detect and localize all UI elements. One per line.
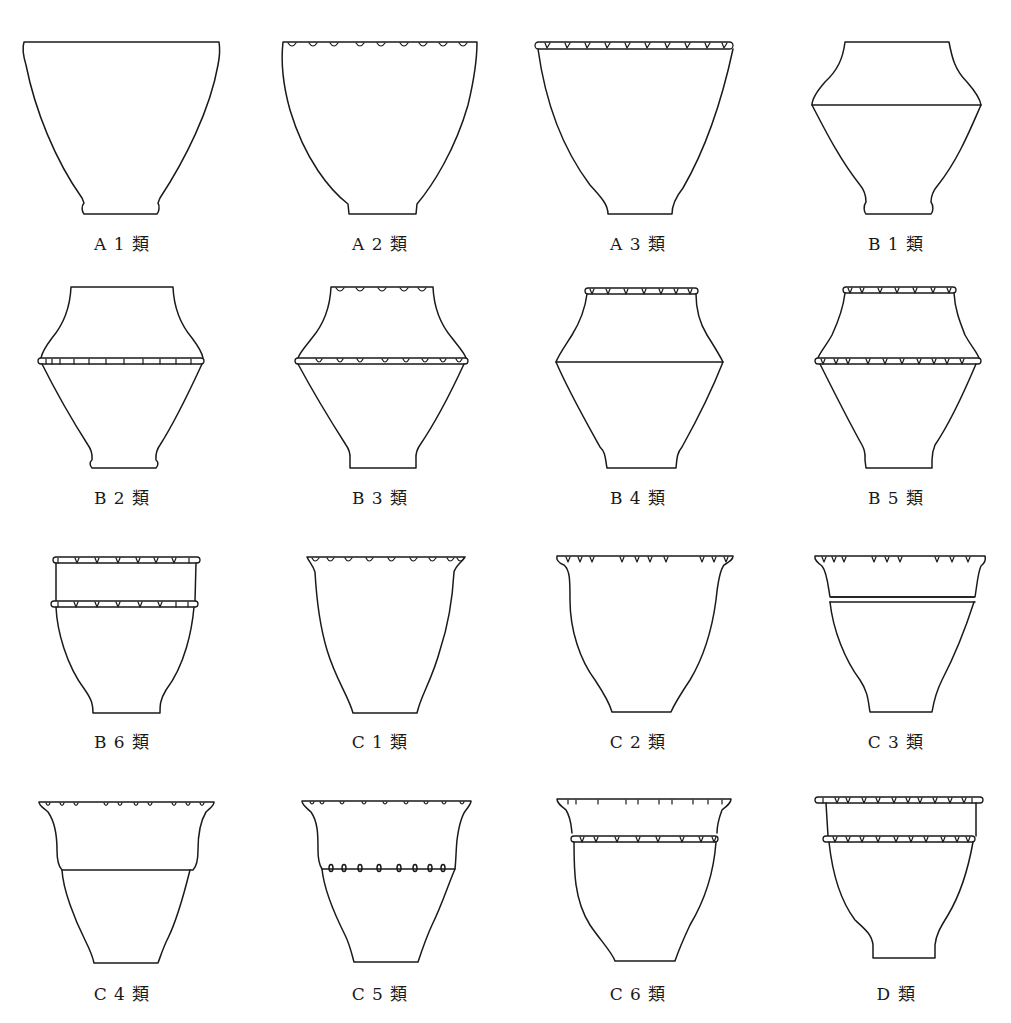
label-a1: A 1 類	[42, 230, 202, 255]
vessel-c3	[815, 556, 986, 712]
label-d: D 類	[816, 980, 976, 1005]
label-a3: A 3 類	[558, 230, 718, 255]
vessel-b2	[38, 287, 204, 468]
label-c2: C 2 類	[558, 728, 718, 753]
rim-band-notches	[310, 802, 464, 804]
vessel-b1	[812, 42, 981, 214]
vessel-b6	[51, 557, 200, 713]
rim-notches	[312, 558, 464, 561]
label-c4: C 4 類	[42, 980, 202, 1005]
vessel-c2	[557, 556, 733, 712]
vessel-a3	[535, 42, 733, 214]
label-b4: B 4 類	[558, 484, 718, 509]
neck-perforations	[329, 865, 445, 872]
vessel-b4	[556, 288, 723, 468]
label-b1: B 1 類	[816, 230, 976, 255]
rim-band-notches	[822, 557, 970, 562]
label-c3: C 3 類	[816, 728, 976, 753]
vessel-c4	[39, 802, 214, 963]
vessel-a1	[23, 42, 220, 214]
vessel-b5	[815, 287, 981, 468]
vessel-c5	[302, 801, 471, 962]
vessel-c6	[557, 799, 731, 961]
rim-band-notches	[46, 803, 204, 806]
vessel-a2	[282, 42, 477, 214]
label-c5: C 5 類	[300, 980, 460, 1005]
vessel-c1	[307, 557, 465, 713]
typology-figure: A 1 類 A 2 類 A 3 類 B 1 類 B 2 類 B 3 類 B 4 …	[0, 0, 1011, 1023]
label-b2: B 2 類	[42, 484, 202, 509]
rim-notches	[288, 43, 467, 46]
rim-notches	[336, 288, 426, 291]
label-a2: A 2 類	[300, 230, 460, 255]
label-c1: C 1 類	[300, 728, 460, 753]
vessel-b3	[295, 287, 468, 468]
label-c6: C 6 類	[558, 980, 718, 1005]
rim-band-notches	[568, 800, 722, 804]
label-b6: B 6 類	[42, 728, 202, 753]
label-b3: B 3 類	[300, 484, 460, 509]
label-b5: B 5 類	[816, 484, 976, 509]
vessel-d	[815, 797, 983, 958]
rim-band-notches	[566, 557, 728, 562]
